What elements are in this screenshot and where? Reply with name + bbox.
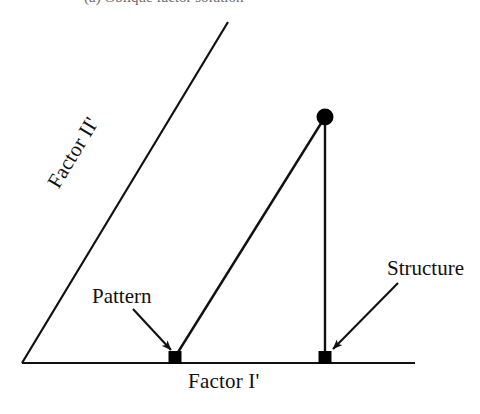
annotation-label-pattern: Pattern <box>92 286 151 307</box>
pattern-projection-line <box>175 117 325 357</box>
figure-root: (a) Oblique factor solution Factor I' Fa… <box>0 0 480 414</box>
pattern-square-marker <box>169 351 182 364</box>
variable-point-marker <box>317 109 334 126</box>
structure-square-marker <box>319 351 332 364</box>
axis-label-factor-1: Factor I' <box>188 371 259 392</box>
diagram-canvas <box>0 0 480 414</box>
axis-factor-2-line <box>22 22 228 363</box>
pattern-annotation-arrow <box>133 309 171 350</box>
annotation-label-structure: Structure <box>387 258 464 279</box>
structure-annotation-arrow <box>333 283 398 349</box>
